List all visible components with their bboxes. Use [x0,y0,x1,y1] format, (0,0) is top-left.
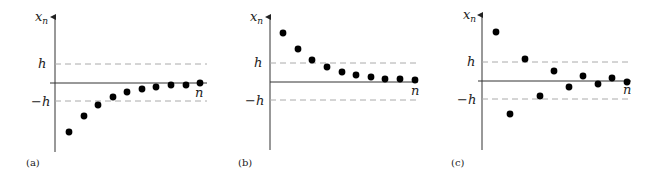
h-label: h [38,56,46,71]
panel-caption: (b) [238,157,252,168]
panel-caption: (c) [451,157,465,168]
neg-h-label: −h [245,93,264,108]
y-axis-label: xn [250,9,263,26]
neg-h-label: −h [31,94,50,109]
y-axis-label: xn [463,7,476,24]
x-axis-label: n [195,85,203,100]
panel-b: xn h −h n (b) [238,9,419,168]
data-points [66,80,204,136]
y-axis-label: xn [35,9,48,26]
data-points [493,29,631,118]
h-label: h [254,55,262,70]
panel-a: xn h −h n (a) [26,9,207,168]
neg-h-label: −h [457,92,476,107]
x-axis-label: n [411,83,419,98]
panel-caption: (a) [26,157,40,168]
sequence-convergence-figure: xn h −h n (a) xn h −h n (b) [0,0,659,182]
panel-c: xn h −h n (c) [451,7,631,168]
data-points [280,30,419,84]
h-label: h [467,54,475,69]
